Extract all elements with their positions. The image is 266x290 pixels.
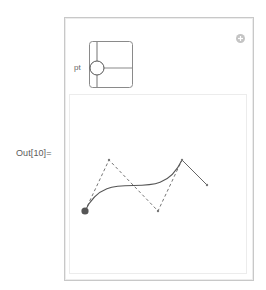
control-label-pt: pt xyxy=(74,63,81,72)
manipulate-panel: pt xyxy=(64,17,254,281)
control-point[interactable] xyxy=(206,184,208,186)
add-button[interactable] xyxy=(236,29,245,38)
control-point[interactable] xyxy=(108,159,110,161)
plot-frame xyxy=(69,94,247,274)
control-point[interactable] xyxy=(181,159,183,161)
locator-pane-graphic xyxy=(89,41,133,88)
start-point[interactable] xyxy=(81,207,88,214)
tail-segment xyxy=(182,160,207,185)
bezier-plot[interactable] xyxy=(70,95,246,273)
bezier-curve xyxy=(85,160,182,211)
locator-handle xyxy=(90,61,104,75)
locator-pane-pt[interactable] xyxy=(89,41,133,88)
output-label: Out[10]= xyxy=(16,148,52,158)
control-point[interactable] xyxy=(157,210,159,212)
plus-circle-icon xyxy=(236,34,245,43)
